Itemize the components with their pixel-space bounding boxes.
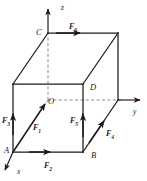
force-label-F5-subscript: 5 [75,121,78,127]
force-label-F1-subscript: 1 [38,128,41,134]
force-label-F6: F6 [69,23,77,33]
force-label-F4-subscript: 4 [111,134,114,140]
vertex-label-C: C [36,28,42,37]
force-label-F1: F1 [33,124,41,134]
axis-label-x: x [17,168,20,176]
force-label-F4: F4 [106,130,114,140]
vertex-label-A: A [4,146,9,155]
cube-force-diagram: z y x C D O A B F1 F2 F3 F4 F5 F6 [0,0,147,181]
force-label-F6-subscript: 6 [74,27,77,33]
vertex-label-B: B [91,151,96,160]
edge-top-left-diagonal [13,33,48,84]
force-label-F3: F3 [2,117,10,127]
force-vector-F4 [89,121,104,143]
force-label-F2: F2 [44,162,52,172]
force-label-F2-subscript: 2 [49,166,52,172]
cube-hidden-edges [13,33,121,152]
cube-visible-edges [13,33,118,152]
force-vectors [13,33,104,152]
edge-top-right-diagonal [83,33,118,84]
axis-label-z: z [61,4,64,12]
force-label-F3-subscript: 3 [7,121,10,127]
vertex-label-O: O [48,97,54,106]
axis-label-y: y [133,108,136,116]
force-label-F5: F5 [70,117,78,127]
vertex-label-D: D [90,83,96,92]
